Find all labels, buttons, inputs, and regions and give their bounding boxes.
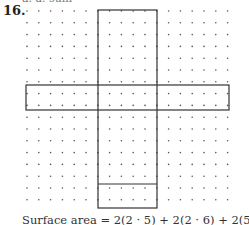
prism-net xyxy=(26,10,229,208)
dot-grid xyxy=(26,10,228,200)
net-vertical-strip xyxy=(98,10,157,208)
dot-grid-net-figure xyxy=(0,0,249,212)
surface-area-formula: Surface area = 2(2 · 5) + 2(2 · 6) + 2(5… xyxy=(22,213,249,225)
net-horizontal-band xyxy=(26,85,229,110)
